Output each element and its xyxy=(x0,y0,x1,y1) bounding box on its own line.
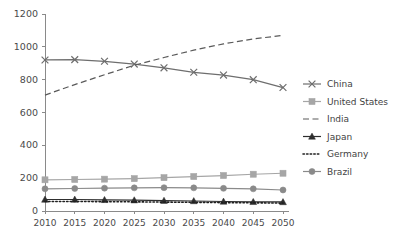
series-brazil xyxy=(42,185,286,193)
x-tick-label: 2020 xyxy=(93,218,116,228)
data-point-marker xyxy=(131,176,137,182)
series-line xyxy=(45,35,283,95)
legend-label: India xyxy=(327,114,349,124)
data-point-marker xyxy=(221,173,227,179)
data-point-marker xyxy=(191,185,197,191)
x-tick-label: 2040 xyxy=(212,218,235,228)
data-point-marker xyxy=(280,170,286,176)
legend-item-germany[interactable]: Germany xyxy=(303,149,369,159)
legend-label: Japan xyxy=(326,132,352,142)
legend-label: United States xyxy=(327,97,388,107)
data-point-marker xyxy=(280,84,287,91)
x-tick-label: 2035 xyxy=(182,218,205,228)
y-tick-label: 400 xyxy=(20,139,38,150)
legend-label: Brazil xyxy=(327,167,352,177)
data-point-marker xyxy=(42,177,48,183)
y-tick-label: 600 xyxy=(20,107,38,118)
chart-container: 020040060080010001200 201020152020202520… xyxy=(0,0,393,244)
data-point-marker xyxy=(221,185,227,191)
legend-item-china[interactable]: China xyxy=(303,79,353,89)
series-united-states xyxy=(42,170,286,183)
x-tick-label: 2025 xyxy=(123,218,146,228)
x-tick-label: 2015 xyxy=(63,218,86,228)
y-tick-label: 1200 xyxy=(14,8,38,19)
y-axis: 020040060080010001200 xyxy=(14,8,45,216)
data-point-marker xyxy=(102,185,108,191)
x-tick-group: 201020152020202520302035204020452050 xyxy=(34,211,295,228)
x-tick-label: 2010 xyxy=(34,218,57,228)
y-tick-label: 800 xyxy=(20,74,38,85)
x-axis: 201020152020202520302035204020452050 xyxy=(34,211,295,228)
legend-label: China xyxy=(327,79,353,89)
legend-item-india[interactable]: India xyxy=(303,114,349,124)
x-tick-label: 2045 xyxy=(242,218,265,228)
data-point-marker xyxy=(72,176,78,182)
data-point-marker xyxy=(102,176,108,182)
legend-item-japan[interactable]: Japan xyxy=(303,132,352,142)
data-point-marker xyxy=(309,99,315,105)
x-tick-label: 2050 xyxy=(272,218,295,228)
data-point-marker xyxy=(250,171,256,177)
data-point-marker xyxy=(42,186,48,192)
line-chart: 020040060080010001200 201020152020202520… xyxy=(0,0,393,244)
series-line xyxy=(45,60,283,88)
y-tick-label: 200 xyxy=(20,172,38,183)
legend-item-brazil[interactable]: Brazil xyxy=(303,167,352,177)
y-tick-label: 0 xyxy=(32,205,38,216)
data-point-marker xyxy=(191,174,197,180)
legend-label: Germany xyxy=(327,149,369,159)
data-point-marker xyxy=(161,185,167,191)
series-china xyxy=(42,56,287,91)
series-layer xyxy=(42,35,287,204)
series-india xyxy=(45,35,283,95)
data-point-marker xyxy=(309,169,315,175)
x-tick-label: 2030 xyxy=(153,218,176,228)
y-tick-group: 020040060080010001200 xyxy=(14,8,45,216)
data-point-marker xyxy=(280,187,286,193)
chart-legend: ChinaUnited StatesIndiaJapanGermanyBrazi… xyxy=(303,79,388,177)
data-point-marker xyxy=(72,186,78,192)
y-tick-label: 1000 xyxy=(14,41,38,52)
data-point-marker xyxy=(250,186,256,192)
data-point-marker xyxy=(161,175,167,181)
series-japan xyxy=(42,196,287,205)
data-point-marker xyxy=(131,185,137,191)
legend-item-united-states[interactable]: United States xyxy=(303,97,388,107)
